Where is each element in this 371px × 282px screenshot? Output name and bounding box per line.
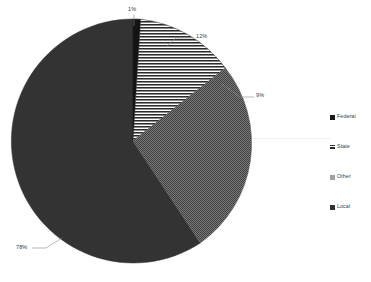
pie-label-federal: 1% xyxy=(128,6,136,12)
legend-label-other: Other xyxy=(337,174,351,180)
legend-item-other[interactable]: Other xyxy=(330,172,371,182)
pie-label-local: 78% xyxy=(16,244,27,250)
chart-legend: Federal State Other Local xyxy=(330,112,371,232)
legend-swatch-icon xyxy=(330,145,335,150)
legend-item-local[interactable]: Local xyxy=(330,202,371,212)
legend-item-state[interactable]: State xyxy=(330,142,371,152)
legend-label-state: State xyxy=(337,144,350,150)
pie-chart-figure: 1% 12% 9% 78% Federal State Other Local xyxy=(0,0,371,282)
legend-swatch-icon xyxy=(330,205,335,210)
pie-label-other: 9% xyxy=(256,92,264,98)
legend-swatch-icon xyxy=(330,115,335,120)
pie-chart-canvas xyxy=(0,0,371,282)
legend-label-federal: Federal xyxy=(337,114,356,120)
legend-item-federal[interactable]: Federal xyxy=(330,112,371,122)
legend-label-local: Local xyxy=(337,204,350,210)
legend-swatch-icon xyxy=(330,175,335,180)
pie-label-state: 12% xyxy=(196,33,207,39)
